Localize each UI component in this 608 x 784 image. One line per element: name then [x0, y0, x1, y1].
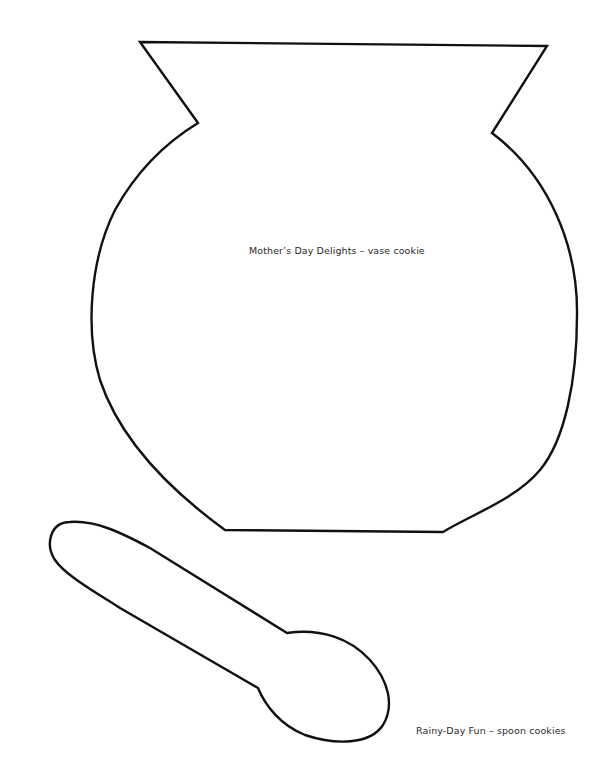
vase-cookie-caption: Mother’s Day Delights – vase cookie [249, 245, 425, 256]
vase-outline [92, 42, 577, 532]
spoon-outline [50, 522, 389, 742]
template-sheet [0, 0, 608, 784]
spoon-cookie-caption: Rainy-Day Fun – spoon cookies [416, 725, 566, 736]
